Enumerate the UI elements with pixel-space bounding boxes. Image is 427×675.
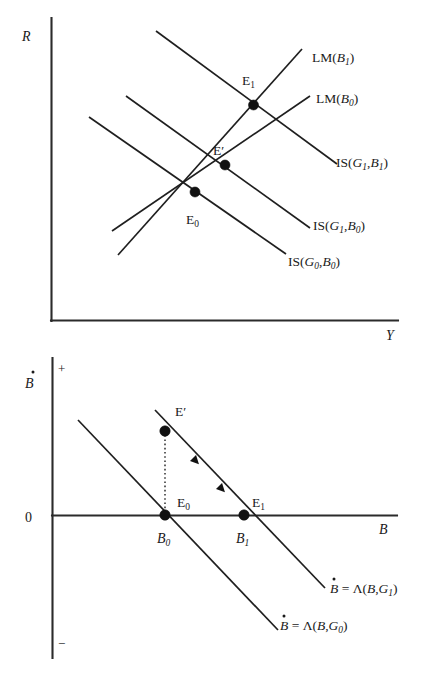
is-g1b1-label: IS(G1,B1): [336, 155, 388, 172]
equilibrium-label-e0: E0: [186, 212, 199, 229]
is-g0b0-label: IS(G0,B0): [288, 254, 340, 271]
bdot-g0-dot-accent: [283, 615, 286, 618]
equilibrium-dot-eprime: [220, 160, 230, 170]
is-g1b1-curve: [156, 31, 337, 164]
axis-tick-label-b1: B1: [236, 531, 249, 548]
is-lm-panel: R Y LM(B1) LM(B0) IS(G1,B1) IS(G1,B0) IS…: [0, 0, 427, 340]
bdot-g0-label: B = Λ(B,G0): [280, 615, 348, 636]
equilibrium-dot-eprime: [160, 426, 170, 436]
equilibrium-label-e1: E1: [252, 495, 265, 512]
is-g1b0-label: IS(G1,B0): [313, 218, 365, 235]
equilibrium-dot-e0: [160, 510, 170, 520]
lm-b0-label: LM(B0): [316, 91, 358, 108]
equilibrium-dot-e1: [249, 100, 259, 110]
axis-tick-label-b0: B0: [157, 531, 171, 548]
lm-b1-label: LM(B1): [312, 50, 354, 67]
bottom-x-axis-label: B: [379, 522, 388, 537]
bdot-g0-curve: [78, 420, 278, 630]
equilibrium-label-eprime: E′: [213, 143, 224, 158]
negative-sign-label: −: [58, 636, 65, 651]
svg-text:B = Λ(B,G1): B = Λ(B,G1): [330, 581, 398, 598]
equilibrium-dot-e0: [190, 187, 200, 197]
equilibrium-label-eprime: E′: [175, 404, 186, 419]
svg-text:B = Λ(B,G0): B = Λ(B,G0): [280, 618, 348, 635]
svg-text:B: B: [25, 376, 34, 391]
top-x-axis-label: Y: [386, 328, 396, 340]
bottom-y-axis-label: B: [25, 371, 35, 392]
y-axis-dot-accent: [32, 371, 35, 374]
equilibrium-label-e1: E1: [242, 73, 255, 90]
economics-figure: R Y LM(B1) LM(B0) IS(G1,B1) IS(G1,B0) IS…: [0, 0, 427, 675]
equilibrium-label-e0: E0: [177, 495, 190, 512]
bond-dynamics-panel: B B + − 0 E′ E0 E1 B0 B1: [0, 340, 427, 675]
lm-b1-curve: [118, 49, 302, 255]
top-y-axis-label: R: [21, 29, 31, 44]
origin-zero-label: 0: [25, 510, 32, 525]
bdot-g1-label: B = Λ(B,G1): [330, 578, 398, 599]
bdot-g1-dot-accent: [333, 578, 336, 581]
equilibrium-dot-e1: [239, 510, 249, 520]
lm-b0-curve: [112, 96, 310, 231]
positive-sign-label: +: [58, 361, 65, 376]
is-g0b0-curve: [89, 117, 286, 254]
